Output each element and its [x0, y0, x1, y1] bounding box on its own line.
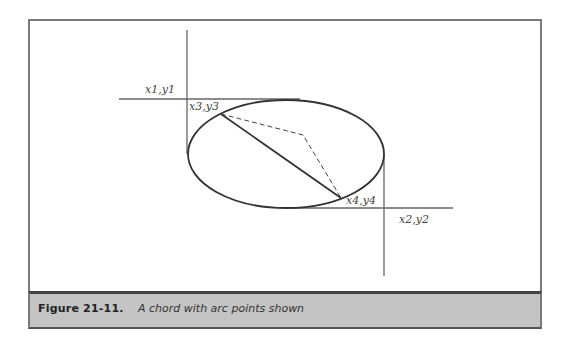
figure-number: Figure 21-11. [38, 302, 124, 315]
figure-caption: A chord with arc points shown [138, 302, 304, 315]
ellipse-arc [188, 100, 384, 208]
chord-line [221, 114, 341, 198]
label-x3-y3: x3,y3 [189, 100, 219, 113]
chord-diagram [0, 0, 569, 341]
label-x4-y4: x4,y4 [346, 194, 376, 207]
label-x2-y2: x2,y2 [399, 213, 429, 226]
figure-caption-bar: Figure 21-11. A chord with arc points sh… [28, 291, 542, 329]
label-x1-y1: x1,y1 [145, 83, 175, 96]
